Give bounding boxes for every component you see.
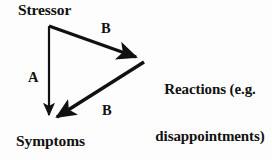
diagram-canvas: Stressor Symptoms Reactions (e.g. disapp… <box>0 0 272 160</box>
node-label-stressor: Stressor <box>18 2 71 18</box>
edge-label-b-bottom: B <box>102 102 112 119</box>
node-label-reactions: Reactions (e.g. disappointments) <box>149 50 271 160</box>
node-label-reactions-line2: disappointments) <box>149 129 271 145</box>
node-label-reactions-line1: Reactions (e.g. <box>149 82 271 98</box>
edge-label-b-top: B <box>101 20 111 37</box>
edge-stressor-to-reactions <box>49 26 136 57</box>
edge-label-a: A <box>28 69 38 86</box>
edge-reactions-to-symptoms <box>57 62 144 117</box>
node-label-symptoms: Symptoms <box>16 133 85 149</box>
